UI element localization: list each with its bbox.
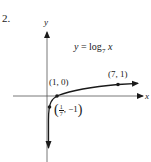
y-axis-label: y xyxy=(44,18,48,27)
point-label-1over7-neg1: (17, −1) xyxy=(54,103,82,117)
point-label-1-0: (1, 0) xyxy=(49,78,69,87)
point-1-0 xyxy=(55,94,59,98)
point-label-7-1: (7, 1) xyxy=(108,70,128,79)
curve-down-arrow-icon xyxy=(46,141,52,149)
equation-arg: x xyxy=(105,41,112,52)
graph-canvas xyxy=(0,0,151,162)
point-1over7-neg1 xyxy=(48,105,52,109)
equation-lhs: = log xyxy=(78,41,101,52)
equation-label: y = log7 x xyxy=(74,41,112,55)
point-7-1 xyxy=(116,83,120,87)
x-axis-label: x xyxy=(145,92,149,101)
